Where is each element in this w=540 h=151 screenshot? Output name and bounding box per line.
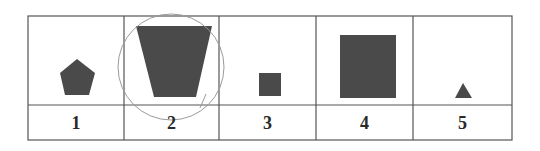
trapezoid-shape (136, 26, 212, 97)
small-square-shape (259, 73, 281, 96)
cell-label-5: 5 (413, 107, 512, 140)
cell-label-2: 2 (124, 107, 219, 140)
triangle-shape (455, 83, 472, 98)
pentagon-shape (60, 59, 95, 95)
circle-stroke-tail (200, 94, 206, 108)
large-square-shape (340, 35, 396, 98)
cell-label-3: 3 (219, 107, 316, 140)
cell-label-1: 1 (28, 107, 124, 140)
cell-label-4: 4 (316, 107, 413, 140)
